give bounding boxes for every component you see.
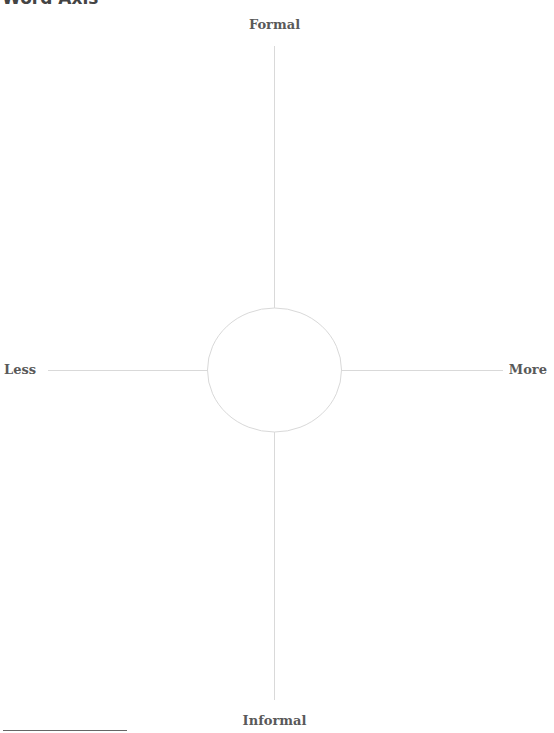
center-circle[interactable]: [208, 308, 342, 432]
word-axis-diagram: [0, 0, 554, 733]
axis-label-right: More: [509, 362, 547, 377]
axis-label-left: Less: [4, 362, 36, 377]
axis-label-bottom: Informal: [0, 713, 549, 728]
name-underline: [3, 730, 127, 731]
